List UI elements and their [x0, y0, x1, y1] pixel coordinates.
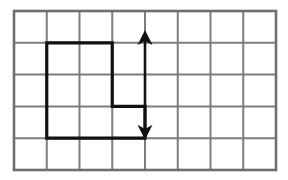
- figure-root: [0, 0, 288, 180]
- grid-figure-svg: [0, 0, 288, 180]
